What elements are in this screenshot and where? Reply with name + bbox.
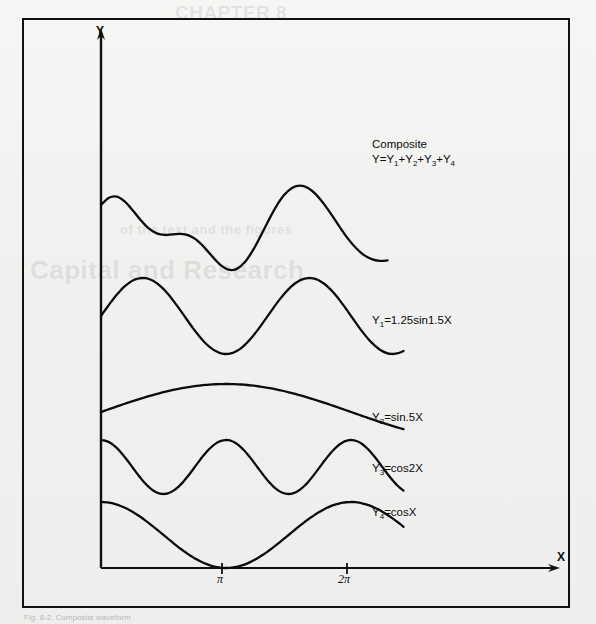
x-axis-label: X — [557, 550, 565, 564]
x-tick-label-pi: π — [217, 572, 223, 587]
label-y3-formula: =cos2X — [384, 462, 423, 474]
label-y2: Y2=sin.5X — [372, 410, 423, 429]
label-y3: Y3=cos2X — [372, 461, 423, 480]
curve-y2 — [101, 384, 403, 429]
curves-group — [101, 186, 403, 568]
composite-y-2: Y — [405, 153, 413, 165]
waveform-plot — [0, 0, 596, 624]
axes-group — [97, 28, 560, 574]
curve-y1 — [101, 278, 403, 354]
label-y2-formula: =sin.5X — [384, 411, 423, 423]
label-y1-formula: =1.25sin1.5X — [384, 314, 451, 326]
curve-composite — [101, 186, 388, 270]
curve-y3 — [101, 440, 403, 494]
x-tick-label-2pi: 2π — [338, 572, 350, 587]
label-y4-formula: =cosX — [384, 506, 416, 518]
composite-sub-4: 4 — [451, 159, 455, 168]
composite-eq-prefix: Y=Y — [372, 153, 394, 165]
label-y4: Y4=cosX — [372, 505, 416, 524]
curve-y4 — [101, 502, 403, 568]
label-y1-letter: Y — [372, 314, 380, 326]
label-composite: Composite Y=Y1+Y2+Y3+Y4 — [372, 137, 455, 171]
composite-y-3: Y — [424, 153, 432, 165]
label-y2-letter: Y — [372, 411, 380, 423]
label-y3-letter: Y — [372, 462, 380, 474]
composite-plus-3: + — [436, 153, 443, 165]
label-composite-line1: Composite — [372, 137, 455, 152]
label-y1: Y1=1.25sin1.5X — [372, 313, 452, 332]
figure-caption: Fig. 8-2. Composite waveform — [24, 613, 131, 622]
composite-y-4: Y — [443, 153, 451, 165]
label-y4-letter: Y — [372, 506, 380, 518]
label-composite-line2: Y=Y1+Y2+Y3+Y4 — [372, 152, 455, 171]
y-axis-label: Y — [96, 24, 104, 38]
